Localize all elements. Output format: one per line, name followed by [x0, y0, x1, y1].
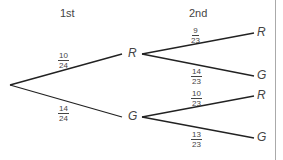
- denominator: 23: [192, 77, 201, 86]
- node-second-GG: G: [257, 130, 266, 144]
- prob-second-RG: 14 23: [191, 67, 202, 86]
- prob-first-G: 14 24: [58, 104, 69, 123]
- node-second-RG: G: [257, 68, 266, 82]
- numerator: 14: [191, 67, 202, 77]
- prob-first-R: 10 24: [58, 51, 69, 70]
- numerator: 10: [191, 89, 202, 99]
- denominator: 23: [191, 36, 200, 45]
- numerator: 9: [192, 26, 198, 36]
- denominator: 23: [192, 99, 201, 108]
- node-first-R: R: [128, 46, 137, 60]
- node-first-G: G: [128, 109, 137, 123]
- prob-second-GR: 10 23: [191, 89, 202, 108]
- numerator: 10: [58, 51, 69, 61]
- node-second-GR: R: [257, 88, 266, 102]
- tree-branches: [0, 0, 283, 160]
- denominator: 23: [192, 140, 201, 149]
- prob-second-GG: 13 23: [191, 130, 202, 149]
- numerator: 13: [191, 130, 202, 140]
- prob-second-RR: 9 23: [191, 26, 200, 45]
- node-second-RR: R: [257, 25, 266, 39]
- header-2nd: 2nd: [189, 7, 207, 19]
- header-1st: 1st: [60, 7, 75, 19]
- denominator: 24: [59, 61, 68, 70]
- denominator: 24: [59, 114, 68, 123]
- right-border-line: [275, 0, 276, 160]
- numerator: 14: [58, 104, 69, 114]
